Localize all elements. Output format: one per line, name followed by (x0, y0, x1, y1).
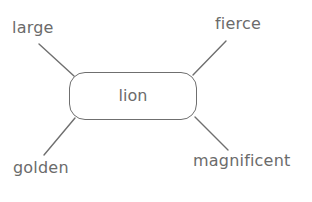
center-node: lion (69, 72, 197, 120)
connector-bottom-right (195, 117, 228, 150)
connector-top-left (39, 44, 74, 76)
connector-top-right (193, 41, 226, 75)
branch-label-top-right: fierce (215, 16, 261, 32)
branch-label-bottom-left: golden (13, 160, 69, 176)
center-node-label: lion (119, 88, 148, 104)
branch-label-bottom-right: magnificent (193, 153, 290, 169)
connector-bottom-left (44, 118, 75, 155)
branch-label-top-left: large (12, 20, 54, 36)
